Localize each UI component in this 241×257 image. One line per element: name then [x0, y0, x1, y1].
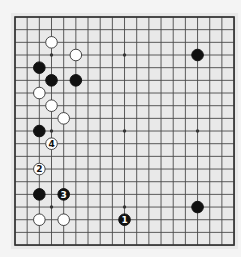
star-point [123, 129, 126, 132]
black-stone-move-1: 1 [119, 214, 131, 226]
white-stone [34, 87, 46, 99]
black-stone [34, 125, 46, 137]
star-point [50, 53, 53, 56]
move-number-label: 1 [121, 215, 127, 225]
white-stone [58, 214, 70, 226]
white-stone [34, 214, 46, 226]
star-point [196, 129, 199, 132]
go-board-canvas: 4231 [0, 0, 241, 257]
white-stone [46, 37, 58, 49]
black-stone [34, 62, 46, 74]
move-number-label: 2 [36, 164, 42, 174]
white-stone [46, 100, 58, 112]
white-stone-move-2: 2 [34, 163, 46, 175]
black-stone [192, 201, 204, 213]
move-number-label: 3 [61, 190, 67, 200]
star-point [123, 205, 126, 208]
white-stone [70, 49, 82, 61]
white-stone [58, 113, 70, 125]
star-point [50, 205, 53, 208]
star-point [123, 53, 126, 56]
black-stone [192, 49, 204, 61]
star-point [50, 129, 53, 132]
move-number-label: 4 [48, 139, 54, 149]
black-stone-move-3: 3 [58, 189, 70, 201]
black-stone [70, 75, 82, 87]
black-stone [46, 75, 58, 87]
black-stone [34, 189, 46, 201]
white-stone-move-4: 4 [46, 138, 58, 150]
go-board: 4231 [0, 0, 241, 257]
